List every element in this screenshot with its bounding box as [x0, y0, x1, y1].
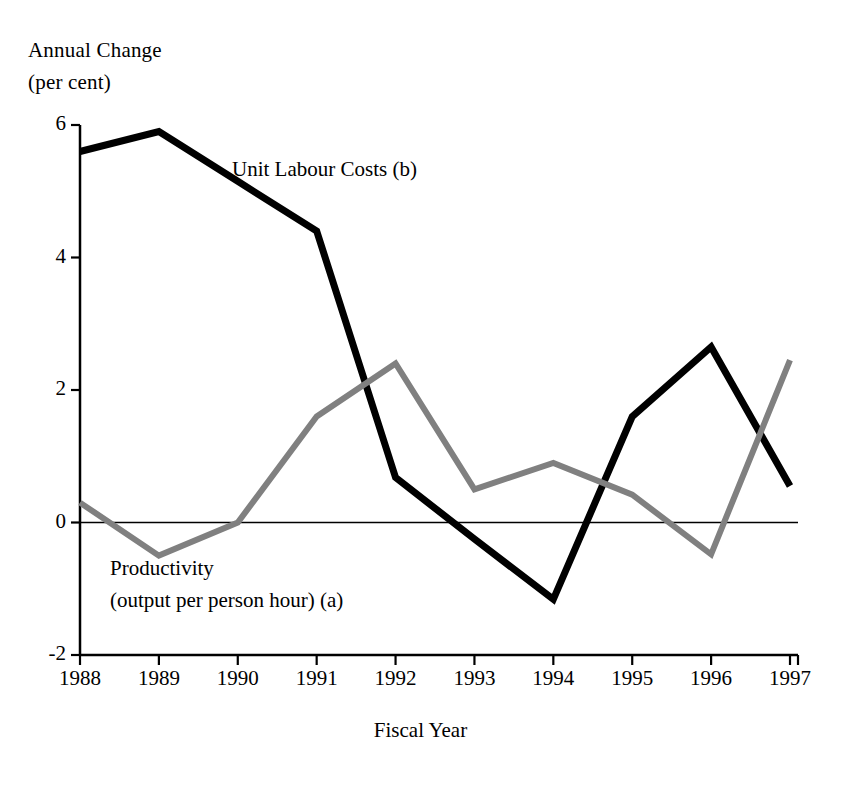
chart-container: Annual Change (per cent) Unit Labour Cos… [0, 0, 841, 788]
x-tick-label-1992: 1992 [357, 666, 435, 691]
series-group [80, 132, 790, 600]
y-tick-label-3: 0 [20, 509, 66, 534]
y-tick-label-0: 6 [20, 111, 66, 136]
x-tick-label-1988: 1988 [41, 666, 119, 691]
y-tick-label-4: -2 [20, 641, 66, 666]
axes-group [71, 125, 798, 665]
x-tick-label-1995: 1995 [593, 666, 671, 691]
series-label-unit-labour-costs: Unit Labour Costs (b) [232, 157, 417, 182]
x-tick-label-1989: 1989 [120, 666, 198, 691]
x-tick-label-1991: 1991 [278, 666, 356, 691]
x-tick-label-1993: 1993 [435, 666, 513, 691]
x-tick-label-1997: 1997 [751, 666, 829, 691]
x-tick-label-1990: 1990 [199, 666, 277, 691]
series-line-productivity [80, 360, 790, 555]
series-label-productivity-sub: (output per person hour) (a) [110, 588, 343, 613]
x-tick-label-1996: 1996 [672, 666, 750, 691]
series-line-unit-labour-costs [80, 132, 790, 600]
y-tick-label-1: 4 [20, 244, 66, 269]
x-axis-title: Fiscal Year [0, 718, 841, 743]
y-tick-label-2: 2 [20, 376, 66, 401]
series-label-productivity: Productivity [110, 556, 214, 581]
x-tick-label-1994: 1994 [514, 666, 592, 691]
